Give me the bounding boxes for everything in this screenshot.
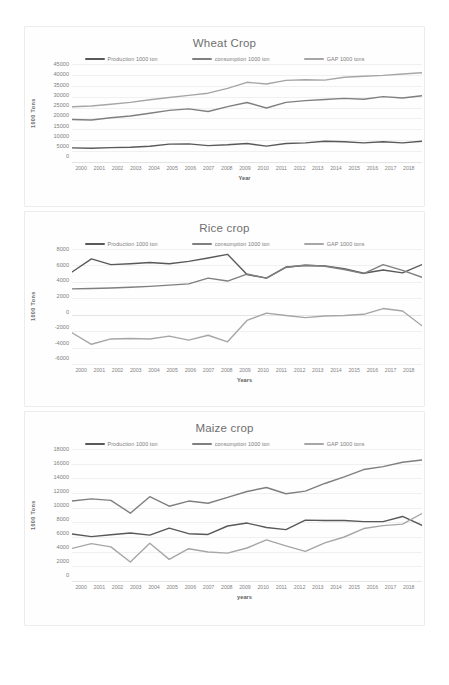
x-tick-label: 2017 bbox=[381, 165, 399, 171]
y-axis-title-wheat: 1000 Tons bbox=[27, 64, 38, 162]
legend-label-gap: GAP 1000 tons bbox=[327, 56, 365, 62]
x-tick-label: 2018 bbox=[400, 584, 418, 590]
y-tick-label: 10000 bbox=[53, 134, 69, 140]
series-lines-maize bbox=[72, 449, 422, 581]
legend-label-production: Production 1000 ton bbox=[108, 56, 158, 62]
legend-item-consumption[interactable]: consumption 1000 ton bbox=[192, 56, 270, 62]
x-tick-label: 2012 bbox=[290, 584, 308, 590]
x-tick-label: 2013 bbox=[309, 367, 327, 373]
x-tick-label: 2002 bbox=[108, 367, 126, 373]
x-axis-ticks-maize: 2000200120022003200420052006200720082009… bbox=[27, 584, 422, 590]
x-tick-label: 2014 bbox=[327, 165, 345, 171]
chart-card-maize: Maize crop Production 1000 ton consumpti… bbox=[24, 411, 425, 626]
legend-swatch-gap bbox=[304, 443, 324, 446]
x-tick-label: 2015 bbox=[345, 367, 363, 373]
series-lines-wheat bbox=[72, 64, 422, 162]
y-tick-label: 16000 bbox=[53, 461, 69, 467]
chart-title-wheat: Wheat Crop bbox=[27, 37, 422, 49]
y-tick-label: 45000 bbox=[53, 62, 69, 68]
legend-item-consumption[interactable]: consumption 1000 ton bbox=[192, 241, 270, 247]
legend-swatch-production bbox=[85, 58, 105, 61]
legend-item-production[interactable]: Production 1000 ton bbox=[85, 441, 158, 447]
y-tick-label: 5000 bbox=[57, 144, 69, 150]
x-tick-label: 2002 bbox=[108, 165, 126, 171]
x-tick-label: 2014 bbox=[327, 367, 345, 373]
y-axis-ticks-wheat: 4500040000350003000025000200001500010000… bbox=[38, 64, 72, 162]
y-tick-label: 0 bbox=[66, 154, 69, 160]
x-tick-label: 2009 bbox=[236, 367, 254, 373]
x-tick-label: 2008 bbox=[218, 584, 236, 590]
x-tick-label: 2006 bbox=[181, 584, 199, 590]
series-line bbox=[72, 73, 422, 107]
legend-item-production[interactable]: Production 1000 ton bbox=[85, 56, 158, 62]
x-tick-label: 2010 bbox=[254, 165, 272, 171]
x-tick-label: 2006 bbox=[181, 367, 199, 373]
x-tick-label: 2013 bbox=[309, 165, 327, 171]
legend-label-gap: GAP 1000 tons bbox=[327, 441, 365, 447]
x-tick-label: 2012 bbox=[290, 165, 308, 171]
chart-legend-rice: Production 1000 ton consumption 1000 ton… bbox=[27, 241, 422, 247]
y-tick-label: 0 bbox=[66, 310, 69, 316]
y-axis-ticks-rice: 80006000400020000-2000-4000-6000 bbox=[38, 249, 72, 364]
y-axis-title-maize: 1000 Tons bbox=[27, 449, 38, 581]
series-line bbox=[72, 460, 422, 513]
x-tick-label: 2016 bbox=[363, 367, 381, 373]
x-tick-label: 2001 bbox=[90, 367, 108, 373]
x-tick-label: 2007 bbox=[199, 165, 217, 171]
y-tick-label: 14000 bbox=[53, 475, 69, 481]
plot-wrap-maize: 1000 Tons 180001600014000120001000080006… bbox=[27, 449, 422, 581]
x-tick-label: 2011 bbox=[272, 584, 290, 590]
y-tick-label: 2000 bbox=[57, 294, 69, 300]
series-line bbox=[72, 516, 422, 536]
x-axis-ticks-rice: 2000200120022003200420052006200720082009… bbox=[27, 367, 422, 373]
x-tick-label: 2007 bbox=[199, 367, 217, 373]
x-tick-label: 2018 bbox=[400, 367, 418, 373]
y-tick-label: 12000 bbox=[53, 489, 69, 495]
x-tick-label: 2003 bbox=[127, 165, 145, 171]
x-tick-label: 2001 bbox=[90, 584, 108, 590]
x-tick-label: 2011 bbox=[272, 165, 290, 171]
x-tick-label: 2012 bbox=[290, 367, 308, 373]
x-tick-label: 2013 bbox=[309, 584, 327, 590]
x-tick-label: 2016 bbox=[363, 165, 381, 171]
y-tick-label: 10000 bbox=[53, 503, 69, 509]
series-lines-rice bbox=[72, 249, 422, 364]
x-tick-label: 2005 bbox=[163, 165, 181, 171]
x-tick-label: 2002 bbox=[108, 584, 126, 590]
x-tick-label: 2015 bbox=[345, 165, 363, 171]
y-tick-label: 18000 bbox=[53, 447, 69, 453]
y-tick-label: 0 bbox=[66, 573, 69, 579]
x-tick-label: 2003 bbox=[127, 584, 145, 590]
series-line bbox=[72, 141, 422, 148]
y-tick-label: 8000 bbox=[57, 517, 69, 523]
plot-area-wheat bbox=[72, 64, 422, 162]
legend-item-gap[interactable]: GAP 1000 tons bbox=[304, 441, 365, 447]
series-line bbox=[72, 309, 422, 345]
chart-title-maize: Maize crop bbox=[27, 422, 422, 434]
x-axis-title-rice: Years bbox=[27, 377, 422, 383]
y-tick-label: 2000 bbox=[57, 559, 69, 565]
chart-legend-wheat: Production 1000 ton consumption 1000 ton… bbox=[27, 56, 422, 62]
legend-label-consumption: consumption 1000 ton bbox=[215, 56, 270, 62]
y-tick-label: -4000 bbox=[55, 341, 69, 347]
legend-item-gap[interactable]: GAP 1000 tons bbox=[304, 56, 365, 62]
legend-swatch-consumption bbox=[192, 58, 212, 61]
legend-item-consumption[interactable]: consumption 1000 ton bbox=[192, 441, 270, 447]
x-axis-ticks-wheat: 2000200120022003200420052006200720082009… bbox=[27, 165, 422, 171]
legend-item-production[interactable]: Production 1000 ton bbox=[85, 241, 158, 247]
y-tick-label: -2000 bbox=[55, 325, 69, 331]
y-axis-ticks-maize: 1800016000140001200010000800060004000200… bbox=[38, 449, 72, 581]
x-tick-label: 2008 bbox=[218, 367, 236, 373]
x-tick-label: 2009 bbox=[236, 165, 254, 171]
x-tick-label: 2011 bbox=[272, 367, 290, 373]
legend-swatch-consumption bbox=[192, 443, 212, 446]
legend-swatch-consumption bbox=[192, 243, 212, 246]
x-tick-label: 2015 bbox=[345, 584, 363, 590]
y-tick-label: 30000 bbox=[53, 93, 69, 99]
legend-label-consumption: consumption 1000 ton bbox=[215, 241, 270, 247]
legend-item-gap[interactable]: GAP 1000 tons bbox=[304, 241, 365, 247]
legend-swatch-gap bbox=[304, 243, 324, 246]
y-tick-label: 15000 bbox=[53, 124, 69, 130]
x-tick-label: 2008 bbox=[218, 165, 236, 171]
legend-label-production: Production 1000 ton bbox=[108, 241, 158, 247]
